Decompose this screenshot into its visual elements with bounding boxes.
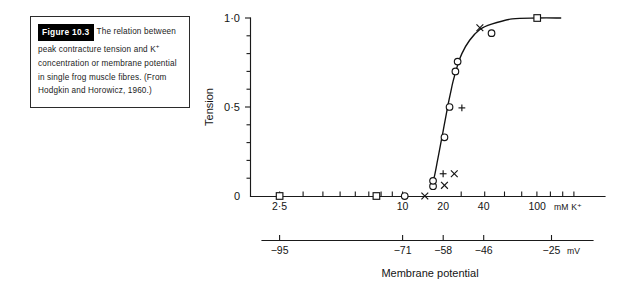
y-axis-ticks xyxy=(245,18,251,178)
data-point-circle xyxy=(401,193,408,200)
data-point-plus xyxy=(458,104,465,111)
x-tick-label-20: 20 xyxy=(437,200,449,212)
data-point-square xyxy=(373,193,380,200)
y-axis-title: Tension xyxy=(203,88,215,126)
mv-axis-ticks xyxy=(280,235,552,241)
mv-tick-label-46: −46 xyxy=(475,244,493,256)
y-tick-label-0-5: 0·5 xyxy=(224,101,240,113)
figure-root: Figure 10.3The relation between peak con… xyxy=(0,0,637,288)
data-point-plus xyxy=(440,170,447,177)
data-point-square xyxy=(276,193,283,200)
x-tick-label-40: 40 xyxy=(478,200,490,212)
data-point-circle xyxy=(488,30,495,37)
data-markers-group xyxy=(276,15,540,200)
mv-tick-label-71: −71 xyxy=(394,244,412,256)
y-tick-label-1: 1·0 xyxy=(224,12,240,24)
fitted-sigmoid-curve xyxy=(431,18,560,186)
mv-tick-label-25: −25 xyxy=(543,244,561,256)
x-tick-label-10: 10 xyxy=(397,200,409,212)
mv-axis-unit-label: mV xyxy=(567,246,580,256)
mv-tick-label-58: −58 xyxy=(434,244,452,256)
y-tick-label-0: 0 xyxy=(234,190,240,202)
chart-area: 1·0 0·5 0 Tension xyxy=(0,0,637,288)
x-tick-label-100: 100 xyxy=(528,200,546,212)
data-point-cross xyxy=(441,182,448,189)
data-point-cross xyxy=(451,170,458,177)
x-tick-label-2-5: 2·5 xyxy=(272,200,287,212)
data-point-circle xyxy=(452,68,459,75)
data-point-circle xyxy=(446,104,453,111)
data-point-circle xyxy=(441,134,448,141)
data-point-square xyxy=(534,15,541,22)
chart-svg: 1·0 0·5 0 Tension xyxy=(0,0,637,288)
data-point-circle xyxy=(454,58,461,65)
mv-tick-label-95: −95 xyxy=(271,244,289,256)
x-axis-unit-label: mM K⁺ xyxy=(554,202,582,212)
data-point-circle xyxy=(430,178,437,185)
x-axis-title: Membrane potential xyxy=(381,267,478,279)
